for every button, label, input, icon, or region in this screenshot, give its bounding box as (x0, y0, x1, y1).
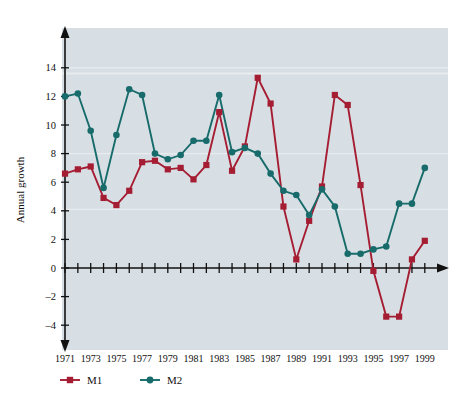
y-axis-title: Annual growth (14, 156, 26, 223)
data-point-m2 (139, 92, 146, 99)
data-point-m1 (152, 158, 158, 164)
data-point-m2 (344, 250, 351, 257)
data-point-m1 (357, 182, 363, 188)
data-point-m2 (126, 86, 133, 93)
data-point-m1 (100, 195, 106, 201)
y-tick-label: 4 (51, 205, 57, 216)
data-point-m1 (280, 203, 286, 209)
data-point-m1 (203, 162, 209, 168)
data-point-m2 (203, 137, 210, 144)
data-point-m2 (267, 170, 274, 177)
x-tick-label: 1991 (312, 353, 332, 364)
legend-label-m2: M2 (167, 374, 182, 386)
x-tick-label: 1971 (55, 353, 75, 364)
data-markers (62, 75, 428, 320)
x-tick-label: 1975 (106, 353, 126, 364)
data-point-m1 (268, 100, 274, 106)
data-point-m1 (332, 92, 338, 98)
data-point-m1 (293, 256, 299, 262)
data-point-m2 (229, 149, 236, 156)
x-tick-label: 1973 (81, 353, 101, 364)
data-point-m1 (345, 102, 351, 108)
data-point-m2 (357, 250, 364, 257)
x-tick-label: 1995 (363, 353, 383, 364)
x-tick-label: 1985 (235, 353, 255, 364)
data-point-m2 (177, 152, 184, 159)
data-point-m2 (396, 200, 403, 207)
data-point-m1 (409, 256, 415, 262)
data-point-m2 (165, 156, 172, 163)
x-tick-label: 1997 (389, 353, 409, 364)
y-axis-tick-labels: –4–202468101214 (45, 62, 57, 330)
data-point-m2 (293, 192, 300, 199)
data-point-m2 (306, 212, 313, 219)
y-tick-label: 14 (46, 62, 57, 73)
data-point-m2 (409, 200, 416, 207)
x-tick-label: 1999 (415, 353, 435, 364)
data-series (65, 78, 425, 317)
data-point-m2 (62, 93, 69, 100)
data-point-m2 (383, 243, 390, 250)
x-tick-label: 1993 (338, 353, 358, 364)
data-point-m1 (75, 166, 81, 172)
data-point-m2 (216, 92, 223, 99)
data-point-m2 (422, 165, 429, 172)
data-point-m2 (100, 185, 107, 192)
data-point-m1 (190, 176, 196, 182)
x-axis-tick-labels: 1971197319751977197919811983198519871989… (55, 353, 435, 364)
data-point-m1 (396, 314, 402, 320)
legend-label-m1: M1 (87, 374, 102, 386)
y-tick-label: 10 (46, 120, 57, 131)
data-point-m1 (126, 188, 132, 194)
data-point-m2 (152, 150, 159, 157)
data-point-m1 (62, 171, 68, 177)
y-tick-label: 6 (51, 177, 56, 188)
x-tick-label: 1979 (158, 353, 178, 364)
y-tick-label: 12 (46, 91, 57, 102)
series-line-m1 (65, 78, 425, 317)
y-tick-label: 2 (51, 234, 56, 245)
data-point-m1 (113, 202, 119, 208)
data-point-m2 (242, 145, 249, 152)
data-point-m1 (229, 168, 235, 174)
y-tick-label: 8 (51, 148, 56, 159)
line-chart: –4–202468101214 197119731975197719791981… (0, 0, 460, 396)
data-point-m2 (87, 127, 94, 134)
series-line-m2 (65, 89, 425, 253)
data-point-m1 (255, 75, 261, 81)
data-point-m2 (319, 186, 326, 193)
data-point-m1 (383, 314, 389, 320)
x-tick-label: 1977 (132, 353, 152, 364)
data-point-m1 (165, 166, 171, 172)
data-point-m2 (75, 90, 82, 97)
x-tick-label: 1981 (184, 353, 204, 364)
data-point-m2 (280, 187, 287, 194)
data-point-m1 (370, 268, 376, 274)
chart-legend: M1M2 (60, 374, 182, 386)
data-point-m1 (88, 163, 94, 169)
data-point-m2 (370, 246, 377, 253)
legend-marker-m2 (147, 377, 154, 384)
data-point-m2 (190, 137, 197, 144)
data-point-m1 (306, 218, 312, 224)
y-tick-label: 0 (51, 263, 56, 274)
data-point-m2 (254, 150, 261, 157)
data-point-m1 (178, 165, 184, 171)
x-tick-label: 1983 (209, 353, 229, 364)
data-point-m1 (422, 238, 428, 244)
x-tick-label: 1989 (286, 353, 306, 364)
legend-marker-m1 (67, 377, 73, 383)
y-tick-label: –2 (45, 291, 57, 302)
data-point-m2 (113, 132, 120, 139)
data-point-m1 (139, 159, 145, 165)
data-point-m1 (216, 109, 222, 115)
x-tick-label: 1987 (261, 353, 281, 364)
data-point-m2 (332, 203, 339, 210)
chart-figure: –4–202468101214 197119731975197719791981… (0, 0, 460, 396)
y-tick-label: –4 (45, 320, 57, 331)
